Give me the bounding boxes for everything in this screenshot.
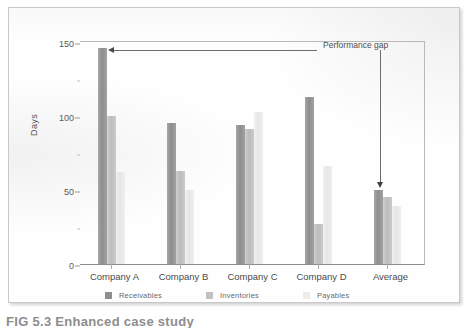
legend-swatch-icon <box>206 292 213 299</box>
bar-group: Company C <box>218 42 287 264</box>
bar-inventories[interactable] <box>314 224 323 264</box>
legend-label: Inventories <box>220 291 259 300</box>
bar-receivables[interactable] <box>98 48 107 264</box>
x-axis-label-average: Average <box>373 271 408 282</box>
y-tick-label-50: 50 <box>64 187 80 197</box>
x-tick-mark <box>318 264 319 269</box>
bar-group: Company D <box>287 42 356 264</box>
y-axis-title: Days <box>29 114 39 136</box>
bar-payables[interactable] <box>254 112 263 264</box>
bar-inventories[interactable] <box>107 116 116 264</box>
x-axis-label-company-a: Company A <box>90 271 139 282</box>
x-tick-mark <box>180 264 181 269</box>
y-tick-label-0: 0 <box>69 261 80 271</box>
legend-item-payables[interactable]: Payables <box>303 291 349 300</box>
x-axis-label-company-d: Company D <box>296 271 346 282</box>
bar-inventories[interactable] <box>245 129 254 264</box>
bar-group: Company A <box>80 42 149 264</box>
legend-label: Payables <box>317 291 349 300</box>
bar-receivables[interactable] <box>167 123 176 264</box>
x-axis-label-company-c: Company C <box>227 271 277 282</box>
legend-item-receivables[interactable]: Receivables <box>105 291 162 300</box>
figure-caption-text: FIG 5.3 Enhanced case study <box>6 316 306 328</box>
bar-payables[interactable] <box>116 172 125 264</box>
y-tick-label-100: 100 <box>59 113 80 123</box>
x-tick-mark <box>387 264 388 269</box>
bar-receivables[interactable] <box>374 190 383 264</box>
annotation-arrow-down-icon <box>377 182 383 188</box>
bar-group: Company B <box>149 42 218 264</box>
figure-caption: FIG 5.3 Enhanced case study <box>6 316 306 328</box>
bar-receivables[interactable] <box>305 97 314 264</box>
bar-group: Average <box>356 42 425 264</box>
plot-area: 050100150Company ACompany BCompany CComp… <box>80 41 425 265</box>
legend-label: Receivables <box>119 291 162 300</box>
legend-swatch-icon <box>105 292 112 299</box>
annotation-vertical-line <box>380 50 381 183</box>
x-tick-mark <box>249 264 250 269</box>
legend-item-inventories[interactable]: Inventories <box>206 291 259 300</box>
x-tick-mark <box>111 264 112 269</box>
legend-swatch-icon <box>303 292 310 299</box>
y-tick-label-150: 150 <box>59 39 80 49</box>
bar-inventories[interactable] <box>383 197 392 264</box>
bar-receivables[interactable] <box>236 125 245 264</box>
performance-gap-label: Performance gap <box>323 40 388 50</box>
annotation-arrow-left-icon <box>108 47 114 53</box>
figure-panel: Days 050100150Company ACompany BCompany … <box>8 7 460 303</box>
bar-payables[interactable] <box>323 166 332 264</box>
chart-legend: ReceivablesInventoriesPayables <box>105 291 393 300</box>
bar-payables[interactable] <box>185 190 194 264</box>
x-axis-label-company-b: Company B <box>159 271 209 282</box>
bar-payables[interactable] <box>392 206 401 264</box>
bar-inventories[interactable] <box>176 171 185 264</box>
annotation-horizontal-line <box>114 50 317 51</box>
